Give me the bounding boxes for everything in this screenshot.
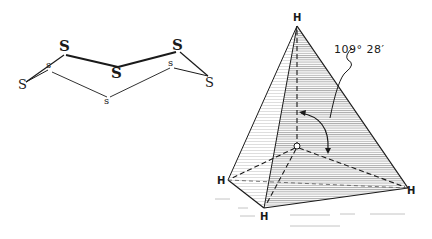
bond-angle-label: 109° 28′	[334, 44, 385, 55]
sulfur-atom-label: S	[18, 78, 27, 91]
sulfur-atom-label: S	[205, 76, 214, 89]
hydrogen-left-label: H	[217, 176, 225, 186]
diagram-canvas	[0, 0, 432, 239]
hydrogen-right-label: H	[407, 186, 415, 196]
tetrahedron	[215, 26, 408, 226]
hydrogen-apex-label: H	[293, 13, 301, 23]
sulfur-atom-label: s	[46, 60, 51, 70]
sulfur-atom-label: s	[168, 58, 173, 68]
hydrogen-bottom-label: H	[260, 212, 268, 222]
sulfur-atom-label: S	[59, 39, 70, 54]
sulfur-atom-label: s	[104, 96, 109, 106]
sulfur-atom-label: S	[111, 66, 122, 81]
sulfur-atom-label: S	[172, 38, 183, 53]
